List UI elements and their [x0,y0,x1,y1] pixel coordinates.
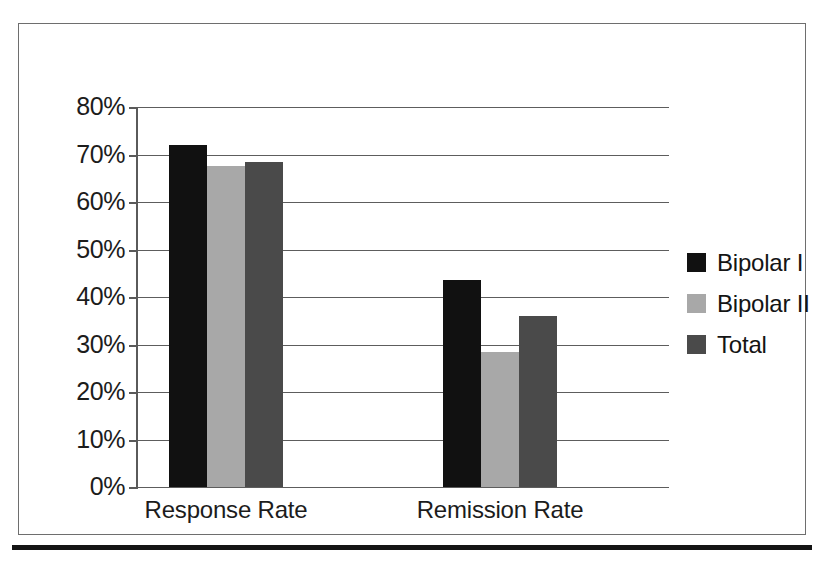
bar-response-rate-bipolar-ii [207,166,245,487]
tick-mark-80 [129,107,138,109]
category-label-response-rate: Response Rate [116,496,336,524]
tick-mark-20 [129,392,138,394]
gridline-70 [136,155,669,156]
page-rule [12,545,812,550]
gridline-0 [136,487,669,488]
y-tick-label: 0% [41,474,125,499]
y-tick-label: 50% [41,237,125,262]
legend-label: Bipolar I [717,249,803,277]
figure-frame: 80%70%60%50%40%30%20%10%0% Response Rate… [18,23,806,535]
legend-swatch-icon [687,294,706,313]
legend-label: Bipolar II [717,290,810,318]
legend-swatch-icon [687,335,706,354]
gridline-80 [136,107,669,108]
y-tick-label: 20% [41,379,125,404]
tick-mark-50 [129,250,138,252]
y-tick-label: 80% [41,94,125,119]
y-tick-label: 30% [41,332,125,357]
legend-item-total: Total [687,324,810,365]
legend-swatch-icon [687,253,706,272]
tick-mark-60 [129,202,138,204]
bar-remission-rate-total [519,316,557,487]
tick-mark-0 [129,487,138,489]
bar-response-rate-bipolar-i [169,145,207,487]
tick-mark-30 [129,345,138,347]
legend-label: Total [717,331,767,359]
bar-response-rate-total [245,162,283,487]
y-tick-label: 40% [41,284,125,309]
legend-item-bipolar-ii: Bipolar II [687,283,810,324]
y-tick-label: 60% [41,189,125,214]
plot-area [136,107,669,487]
tick-mark-10 [129,440,138,442]
legend-item-bipolar-i: Bipolar I [687,242,810,283]
tick-mark-70 [129,155,138,157]
chart-legend: Bipolar IBipolar IITotal [687,242,810,365]
y-tick-label: 10% [41,427,125,452]
tick-mark-40 [129,297,138,299]
y-tick-label: 70% [41,142,125,167]
y-axis-tick-labels: 80%70%60%50%40%30%20%10%0% [33,24,125,534]
category-label-remission-rate: Remission Rate [390,496,610,524]
bar-remission-rate-bipolar-i [443,280,481,487]
bar-remission-rate-bipolar-ii [481,352,519,487]
